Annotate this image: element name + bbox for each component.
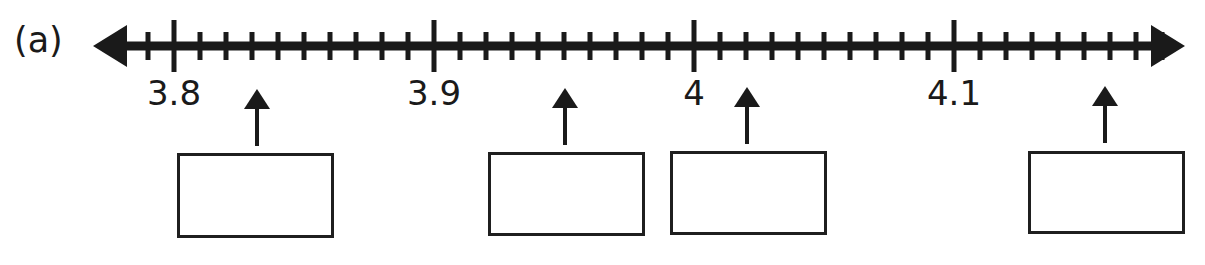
minor-tick (1108, 32, 1113, 60)
axis-right-arrowhead-icon (1151, 25, 1185, 67)
minor-tick (380, 32, 385, 60)
minor-tick (562, 32, 567, 60)
minor-tick (718, 32, 723, 60)
pointer-2-up-arrowhead-icon (552, 88, 578, 108)
minor-tick (484, 32, 489, 60)
minor-tick (640, 32, 645, 60)
answer-box-2[interactable] (488, 152, 645, 236)
figure-canvas: (a) 3.83.944.1 (0, 0, 1205, 265)
minor-tick (224, 32, 229, 60)
minor-tick (406, 32, 411, 60)
major-tick-4-1 (952, 20, 957, 72)
minor-tick (1134, 32, 1139, 60)
axis-group (93, 25, 1185, 67)
minor-tick (978, 32, 983, 60)
minor-tick (1160, 32, 1165, 60)
pointer-1-up-arrowhead-icon (244, 89, 270, 109)
minor-tick (770, 32, 775, 60)
axis-tick-label: 4.1 (927, 76, 981, 110)
minor-tick (874, 32, 879, 60)
answer-box-4[interactable] (1028, 151, 1185, 234)
minor-tick (744, 32, 749, 60)
minor-tick (614, 32, 619, 60)
minor-tick (198, 32, 203, 60)
minor-tick (328, 32, 333, 60)
minor-tick (1004, 32, 1009, 60)
minor-tick (250, 32, 255, 60)
minor-tick (796, 32, 801, 60)
minor-tick (900, 32, 905, 60)
major-tick-3-9 (432, 20, 437, 72)
minor-tick (354, 32, 359, 60)
axis-tick-label: 3.9 (407, 76, 461, 110)
minor-tick (848, 32, 853, 60)
minor-tick (1056, 32, 1061, 60)
minor-tick (146, 32, 151, 60)
minor-tick (536, 32, 541, 60)
answer-box-3[interactable] (670, 151, 827, 235)
minor-tick (276, 32, 281, 60)
minor-tick (510, 32, 515, 60)
minor-tick (458, 32, 463, 60)
tick-marks-group (120, 20, 1165, 72)
major-tick-3-8 (172, 20, 177, 72)
axis-tick-label: 4 (683, 76, 705, 110)
minor-tick (666, 32, 671, 60)
minor-tick (926, 32, 931, 60)
pointer-3-up-arrowhead-icon (734, 87, 760, 107)
answer-box-1[interactable] (177, 153, 334, 238)
pointer-arrows-group (244, 86, 1118, 146)
minor-tick (120, 32, 125, 60)
pointer-4-up-arrowhead-icon (1092, 86, 1118, 106)
major-tick-4 (692, 20, 697, 72)
minor-tick (302, 32, 307, 60)
minor-tick (822, 32, 827, 60)
minor-tick (588, 32, 593, 60)
axis-tick-label: 3.8 (147, 76, 201, 110)
minor-tick (1082, 32, 1087, 60)
minor-tick (1030, 32, 1035, 60)
